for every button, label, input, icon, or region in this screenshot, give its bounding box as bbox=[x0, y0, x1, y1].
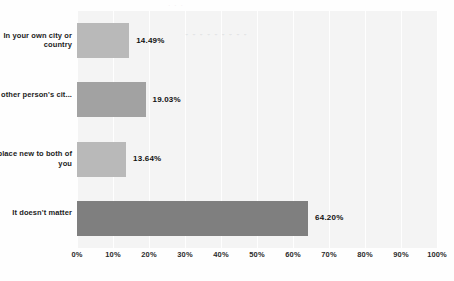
bar-value-label: 13.64% bbox=[133, 154, 161, 163]
plot-area bbox=[77, 11, 437, 248]
bar-value-label: 14.49% bbox=[136, 36, 164, 45]
x-tick-label: 10% bbox=[105, 250, 120, 259]
bar-chart-figure: - - - - - - - - - - - - In your own city… bbox=[0, 0, 454, 281]
x-tick-label: 60% bbox=[285, 250, 300, 259]
x-tick-label: 20% bbox=[141, 250, 156, 259]
x-tick-label: 30% bbox=[177, 250, 192, 259]
bar-value-label: 64.20% bbox=[315, 213, 343, 222]
bar-value-label: 19.03% bbox=[153, 95, 181, 104]
category-label: In your own city or country bbox=[0, 31, 72, 50]
gridline bbox=[365, 11, 366, 248]
x-tick-label: 80% bbox=[357, 250, 372, 259]
gridline bbox=[437, 11, 438, 248]
gridline bbox=[401, 11, 402, 248]
bar bbox=[77, 201, 308, 236]
x-tick-label: 0% bbox=[71, 250, 82, 259]
x-tick-label: 50% bbox=[249, 250, 264, 259]
category-label: It doesn't matter bbox=[0, 208, 72, 218]
category-label: In the other person's cit... bbox=[0, 90, 72, 100]
scan-artifact-top: - - - bbox=[168, 1, 298, 10]
x-tick-label: 40% bbox=[213, 250, 228, 259]
bar bbox=[77, 82, 146, 117]
x-tick-label: 100% bbox=[427, 250, 447, 259]
bar bbox=[77, 142, 126, 177]
bar bbox=[77, 23, 129, 58]
x-tick-label: 90% bbox=[393, 250, 408, 259]
x-tick-label: 70% bbox=[321, 250, 336, 259]
x-axis: 0%10%20%30%40%50%60%70%80%90%100% bbox=[77, 250, 437, 264]
category-label: In a place new to both of you bbox=[0, 149, 72, 168]
